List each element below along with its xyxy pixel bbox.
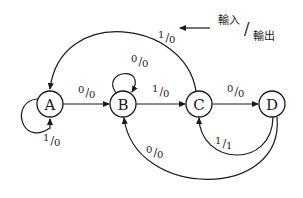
legend-output-label: 輸出: [253, 29, 275, 43]
state-diagram: 1/0 輸入 / 輸出 1/0 0/0 0/0 1/0 0/0 1/1 0/0 …: [0, 0, 303, 198]
state-node-d: D: [259, 91, 285, 117]
edge-label-b-to-c: 1/0: [152, 83, 169, 99]
edge-label-d-to-c: 1/1: [215, 135, 232, 151]
edge-label-a-self: 1/0: [43, 132, 60, 148]
state-label-d: D: [266, 96, 278, 114]
legend-input-label: 輸入: [218, 13, 240, 27]
edge-d-to-c: [199, 117, 273, 155]
edge-label-c-to-d: 0/0: [227, 83, 244, 99]
state-label-a: A: [44, 96, 56, 114]
state-label-b: B: [117, 96, 128, 114]
edge-label-b-self: 0/0: [131, 53, 148, 69]
edge-b-self-loop: [113, 74, 136, 93]
legend-separator: /: [244, 19, 250, 38]
state-node-b: B: [110, 91, 136, 117]
state-node-a: A: [37, 91, 63, 117]
state-node-c: C: [186, 91, 212, 117]
state-label-c: C: [193, 96, 204, 114]
edge-label-a-to-b: 0/0: [78, 84, 95, 100]
edge-label-d-to-b: 0/0: [146, 144, 163, 160]
